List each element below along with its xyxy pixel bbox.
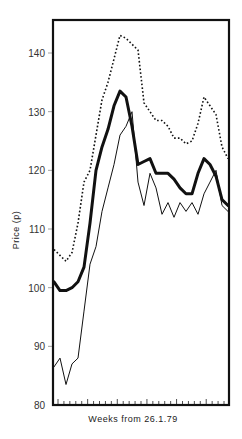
y-tick-label: 110: [29, 224, 45, 235]
data-series: [54, 35, 228, 384]
x-axis-label: Weeks from 26.1.79: [88, 414, 177, 424]
y-tick-label: 90: [34, 341, 46, 352]
y-tick-label: 120: [28, 165, 45, 176]
y-tick-label: 100: [28, 283, 45, 294]
y-axis-label: Price (p): [11, 211, 21, 250]
y-tick-label: 80: [34, 400, 46, 411]
y-axis-ticks: 8090100110120130140: [28, 48, 53, 411]
series-line-thin: [54, 112, 228, 385]
y-tick-label: 140: [28, 48, 45, 59]
series-line-dotted: [54, 35, 228, 261]
series-line-thick: [54, 91, 228, 291]
price-line-chart: 8090100110120130140 Price (p) Weeks from…: [0, 0, 242, 439]
y-tick-label: 130: [28, 107, 45, 118]
